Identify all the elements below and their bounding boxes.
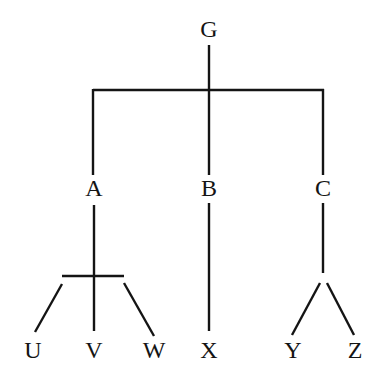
node-c: C	[315, 175, 331, 201]
node-v: V	[85, 337, 103, 363]
edge-c-y	[292, 283, 320, 335]
node-w: W	[143, 337, 166, 363]
node-g: G	[200, 16, 217, 42]
edges-c	[292, 203, 354, 335]
node-b: B	[201, 175, 217, 201]
node-labels: G A B C U V W X Y Z	[24, 16, 362, 363]
node-u: U	[24, 337, 41, 363]
node-x: X	[200, 337, 217, 363]
tree-diagram: G A B C U V W X Y Z	[0, 0, 385, 369]
edges-g	[93, 45, 324, 175]
edge-a-w	[124, 283, 154, 336]
node-a: A	[85, 175, 103, 201]
node-z: Z	[348, 337, 363, 363]
edge-c-z	[327, 283, 354, 335]
node-y: Y	[284, 337, 301, 363]
edges-a	[35, 205, 154, 336]
edge-a-u	[35, 284, 62, 332]
